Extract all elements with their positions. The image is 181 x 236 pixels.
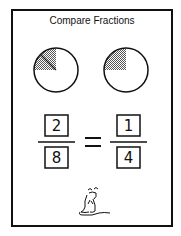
mouse-icon bbox=[79, 188, 110, 216]
right-numerator: 1 bbox=[124, 117, 134, 135]
left-denominator: 8 bbox=[52, 149, 62, 167]
equals-sign bbox=[85, 138, 101, 146]
left-pie-chart bbox=[34, 48, 78, 92]
left-fraction: 2 8 bbox=[38, 115, 75, 168]
left-numerator: 2 bbox=[52, 117, 62, 135]
right-pie-chart bbox=[104, 48, 148, 92]
right-denominator: 4 bbox=[124, 149, 134, 167]
right-fraction: 1 4 bbox=[110, 115, 147, 168]
